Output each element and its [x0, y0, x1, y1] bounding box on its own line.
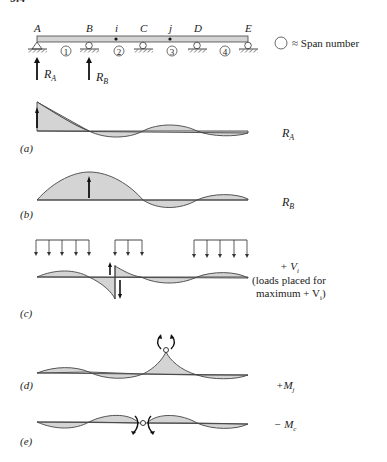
panel-label-c: (c): [20, 307, 33, 320]
beam-member: [37, 36, 248, 42]
roller-support-icon-c: [134, 42, 153, 52]
panel-c-influence-line-vi: (c) + Vi (loads placed for maximum + Vi): [20, 240, 326, 320]
reaction-arrow-b-icon: [86, 57, 92, 80]
point-j-marker: [168, 37, 171, 40]
continuous-beam: A B C D E i j: [28, 22, 359, 86]
support-label-a: A: [33, 22, 41, 34]
span-number-3: 3: [167, 46, 177, 57]
svg-text:1: 1: [64, 47, 69, 57]
shear-arrow-up-icon: [108, 262, 112, 275]
hinge-icon: [164, 348, 169, 353]
span-number-4: 4: [220, 46, 230, 57]
point-label-i: i: [115, 22, 118, 34]
panel-title-c: + Vi: [280, 260, 299, 275]
svg-text:4: 4: [223, 47, 228, 57]
roller-support-icon-d: [188, 42, 207, 52]
distributed-load-span-1-icon: [34, 240, 91, 256]
panel-title-d: +Mj: [276, 379, 295, 394]
panel-label-a: (a): [20, 142, 33, 155]
panel-d-influence-line-mj: (d) +Mj: [20, 334, 295, 394]
panel-label-d: (d): [20, 379, 33, 392]
influence-lines-diagram: 9.4 A B C D E i j: [0, 0, 387, 462]
panel-label-b: (b): [20, 208, 33, 221]
panel-b-influence-line-rb: (b) RB: [20, 172, 294, 221]
panel-label-e: (e): [20, 435, 33, 448]
support-label-c: C: [140, 22, 148, 34]
panel-e-influence-line-mc: (e) − Mc: [20, 415, 297, 448]
reaction-arrow-a-icon: [34, 57, 40, 80]
panel-title-e: − Mc: [274, 418, 297, 433]
distributed-load-span-4-icon: [192, 240, 249, 258]
shear-arrow-down-icon: [118, 280, 122, 299]
roller-support-icon-b: [80, 42, 99, 52]
roller-support-icon-e: [239, 42, 258, 52]
span-legend-circle-icon: [275, 37, 287, 49]
distributed-load-span-2-icon: [113, 240, 144, 256]
reaction-label-b: RB: [95, 70, 108, 86]
svg-text:2: 2: [117, 47, 122, 57]
header-partial-text: 9.4: [10, 0, 25, 5]
pin-support-icon: [28, 42, 47, 53]
panel-a-influence-line-ra: (a) RA: [20, 102, 294, 155]
span-number-1: 1: [61, 46, 71, 57]
panel-note-c-line2: maximum + Vi): [256, 287, 326, 302]
span-number-legend: ≈ Span number: [275, 37, 359, 50]
point-i-marker: [114, 37, 117, 40]
span-legend-text: ≈ Span number: [292, 37, 359, 49]
panel-note-c-line1: (loads placed for: [252, 274, 326, 287]
support-label-e: E: [244, 22, 252, 34]
span-number-2: 2: [114, 46, 124, 57]
svg-text:3: 3: [170, 47, 175, 57]
panel-title-b: RB: [281, 195, 294, 211]
support-label-b: B: [86, 22, 93, 34]
reaction-label-a: RA: [43, 67, 56, 83]
panel-title-a: RA: [281, 126, 294, 142]
hinge-icon: [141, 421, 146, 426]
support-label-d: D: [193, 22, 202, 34]
point-label-j: j: [167, 22, 172, 34]
